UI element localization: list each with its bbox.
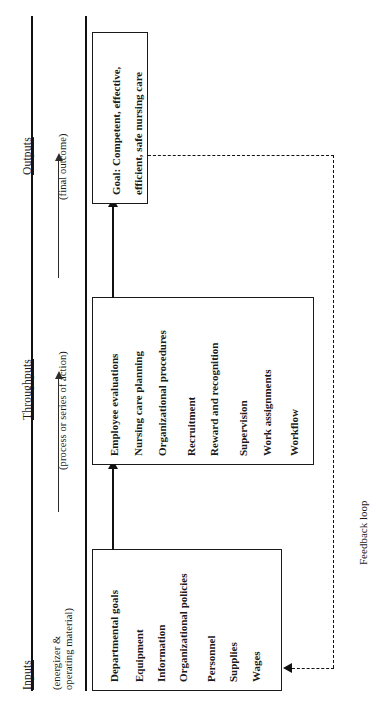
goal-box[interactable]: Goal: Competent, effective, efficient, s… — [92, 32, 148, 204]
goal-line-1: efficient, safe nursing care — [133, 72, 144, 195]
annotation-arrow-inputs-to-throughputs — [58, 378, 59, 512]
band-label-throughputs: Throughputs — [22, 359, 34, 420]
band-divider-outputs-throughputs — [31, 16, 33, 691]
band-sublabel-throughputs-line1: (process or series of action) — [58, 351, 69, 470]
band-divider-throughputs-inputs — [85, 16, 87, 691]
throughputs-item-5: Supervision — [238, 400, 249, 456]
goal-line-0: Goal: Competent, effective, — [111, 67, 122, 195]
annotation-arrow-throughputs-to-outputs — [58, 160, 59, 278]
throughputs-item-6: Work assignments — [262, 370, 273, 457]
feedback-loop-label: Feedback loop — [358, 501, 369, 565]
inputs-item-1: Equipment — [134, 629, 145, 682]
feedback-segment-top — [148, 155, 334, 156]
throughputs-item-7: Workflow — [289, 409, 300, 456]
feedback-arrowhead-icon — [283, 663, 292, 673]
band-label-outputs: Outputs — [22, 137, 34, 175]
band-label-inputs: Inputs — [22, 660, 34, 690]
throughputs-item-3: Recruitment — [186, 397, 197, 456]
inputs-box[interactable]: Departmental goals Equipment Information… — [92, 549, 282, 691]
flow-arrow-inputs-to-throughputs — [112, 468, 114, 550]
throughputs-box[interactable]: Employee evaluations Nursing care planni… — [92, 297, 314, 465]
inputs-item-6: Wages — [251, 651, 262, 682]
band-sublabel-inputs-line1: (energizer & — [52, 636, 63, 690]
inputs-item-4: Personnel — [206, 636, 217, 682]
throughputs-item-1: Nursing care planning — [133, 351, 144, 456]
inputs-item-3: Organizational policies — [178, 574, 189, 682]
diagram-canvas: Inputs (energizer & operating material) … — [0, 0, 376, 707]
inputs-item-0: Departmental goals — [109, 590, 120, 682]
band-sublabel-inputs-line2: operating material) — [64, 608, 75, 690]
band-sublabel-outputs-line1: (final outcome) — [58, 133, 69, 200]
flow-arrow-throughputs-to-goal — [112, 206, 114, 298]
throughputs-item-0: Employee evaluations — [109, 354, 120, 456]
inputs-item-5: Supplies — [228, 642, 239, 682]
throughputs-item-4: Reward and recognition — [209, 343, 220, 456]
feedback-segment-right — [333, 155, 334, 668]
feedback-segment-bottom — [292, 668, 334, 669]
inputs-item-2: Information — [156, 625, 167, 682]
throughputs-item-2: Organizational procedures — [157, 330, 168, 456]
